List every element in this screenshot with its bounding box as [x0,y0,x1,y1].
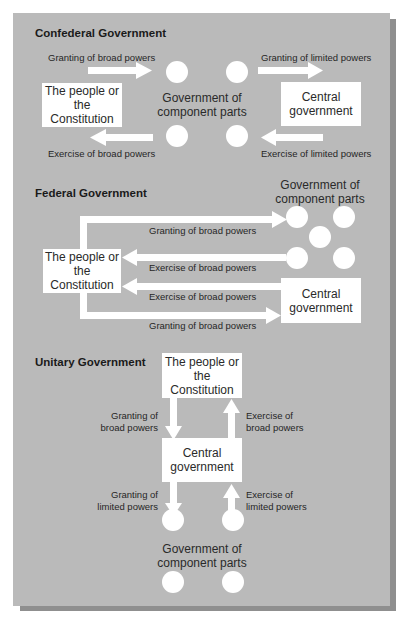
people-box-line2: the Constitution [170,369,233,397]
component-circle [286,206,308,228]
confederal-label-exercise-limited: Exercise of limited powers [261,148,371,159]
component-label-line1: Government of [162,91,241,105]
component-circle [333,206,355,228]
federal-label-exercise-components: Exercise of broad powers [149,262,256,273]
component-label-line2: component parts [157,105,246,119]
central-box-line2: government [170,460,233,474]
arrow-up-icon [223,484,240,510]
component-circle [226,125,248,147]
component-circle [222,509,244,531]
component-label-line2: component parts [275,192,364,206]
component-circle [162,571,184,593]
unitary-title: Unitary Government [35,356,146,368]
central-box-line2: government [289,104,352,118]
component-label-line1: Government of [162,542,241,556]
confederal-people-box: The people orthe Constitution [42,83,122,127]
unitary-label-exercise-limited: Exercise oflimited powers [246,489,307,513]
federal-people-box: The people orthe Constitution [43,249,121,293]
component-circle [166,61,188,83]
arrow-down-icon [165,398,182,440]
label-line1: Exercise of [246,489,293,500]
federal-label-granting-central: Granting of broad powers [149,320,256,331]
component-circle [333,247,355,269]
people-box-line1: The people or [45,84,119,98]
people-box-line2: the Constitution [50,264,113,292]
label-line1: Exercise of [246,410,293,421]
central-box-line1: Central [302,90,341,104]
arrow-left-icon [261,129,323,146]
confederal-label-granting-limited: Granting of limited powers [261,52,371,63]
label-line1: Granting of [111,489,158,500]
label-line1: Granting of [111,410,158,421]
component-label-line1: Government of [280,178,359,192]
unitary-people-box: The people orthe Constitution [162,353,242,398]
confederal-label-granting-broad: Granting of broad powers [48,52,155,63]
unitary-component-label: Government ofcomponent parts [157,542,247,570]
central-box-line1: Central [183,446,222,460]
central-box-line1: Central [302,287,341,301]
central-box-line2: government [289,301,352,315]
federal-central-box: Centralgovernment [281,278,361,323]
people-box-line1: The people or [165,355,239,369]
federal-label-granting-components: Granting of broad powers [149,225,256,236]
label-line2: broad powers [246,422,304,433]
confederal-label-exercise-broad: Exercise of broad powers [48,148,155,159]
confederal-component-label: Government ofcomponent parts [157,91,247,119]
unitary-label-granting-broad: Granting ofbroad powers [100,410,158,434]
unitary-label-granting-limited: Granting oflimited powers [92,489,158,513]
component-circle [222,571,244,593]
label-line2: limited powers [246,501,307,512]
component-circle [162,509,184,531]
component-circle [286,247,308,269]
component-label-line2: component parts [157,556,246,570]
unitary-central-box: Centralgovernment [162,438,242,482]
label-line2: broad powers [100,422,158,433]
component-circle [226,61,248,83]
federal-label-exercise-central: Exercise of broad powers [149,291,256,302]
component-circle [166,125,188,147]
federal-title: Federal Government [35,187,147,199]
arrow-right-icon [88,62,152,79]
arrow-up-icon [223,399,240,438]
people-box-line2: the Constitution [50,98,113,126]
people-box-line1: The people or [45,250,119,264]
confederal-title: Confederal Government [35,27,166,39]
label-line2: limited powers [97,501,158,512]
federal-component-label: Government ofcomponent parts [275,178,365,206]
component-circle [309,226,331,248]
unitary-label-exercise-broad: Exercise ofbroad powers [246,410,304,434]
arrow-left-icon [90,129,153,146]
confederal-central-box: Centralgovernment [281,82,361,126]
arrow-right-icon [258,62,323,79]
